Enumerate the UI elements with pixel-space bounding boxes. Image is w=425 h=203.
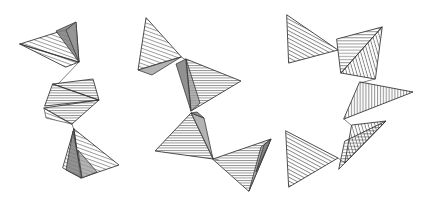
zigzag-figures-svg: [0, 0, 425, 203]
figure-canvas: [0, 0, 425, 203]
